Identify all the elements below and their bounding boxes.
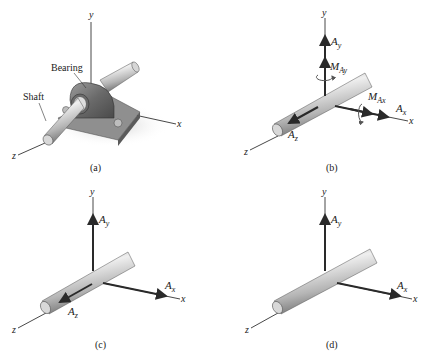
- x-axis-label: x: [408, 115, 414, 126]
- moment-max-label: MAx: [367, 90, 386, 105]
- z-axis: [251, 313, 278, 328]
- force-ay-label: Ay: [98, 213, 110, 228]
- panel-d: y x z Ay Ax (d): [244, 186, 418, 351]
- z-axis-label: z: [11, 150, 16, 161]
- force-ax-arrow: [337, 283, 400, 296]
- z-axis: [250, 136, 278, 150]
- panel-b: y x z Ay MAy MAx Ax Az (b): [243, 7, 414, 174]
- caption-d: (d): [326, 339, 338, 351]
- z-axis-label: z: [11, 324, 16, 335]
- x-axis-label: x: [412, 293, 418, 304]
- force-az-label: Az: [287, 128, 299, 143]
- moment-may-label: MAy: [329, 60, 348, 75]
- z-axis-label: z: [243, 146, 248, 157]
- force-ay-label: Ay: [330, 213, 342, 228]
- bearing-callout: Bearing: [51, 62, 83, 73]
- caption-b: (b): [326, 162, 338, 174]
- x-axis-label: x: [176, 118, 182, 129]
- force-ax-label: Ax: [395, 102, 407, 117]
- force-ax-label: Ax: [396, 279, 408, 294]
- caption-c: (c): [95, 339, 106, 351]
- z-axis: [18, 313, 46, 328]
- moment-max-arrow: [350, 109, 372, 114]
- bolt-icon: [114, 119, 122, 127]
- y-axis-label: y: [88, 9, 94, 20]
- y-axis-label: y: [321, 186, 327, 197]
- shaft-callout: Shaft: [23, 91, 44, 102]
- shaft: [42, 252, 135, 314]
- caption-a: (a): [90, 162, 101, 174]
- force-ax-label: Ax: [164, 279, 176, 294]
- z-axis: [18, 143, 45, 155]
- force-ay-label: Ay: [330, 35, 342, 50]
- force-ax-arrow: [103, 283, 166, 296]
- panel-a: y x z Bearing Shaft (a): [11, 9, 182, 174]
- x-axis-label: x: [180, 293, 186, 304]
- z-axis-label: z: [244, 324, 249, 335]
- bearing-support-diagram: y x z Bearing Shaft (a) y x z Ay MAy MAx: [0, 0, 428, 359]
- y-axis-label: y: [321, 7, 327, 18]
- force-az-label: Az: [67, 305, 79, 320]
- shaft: [274, 73, 372, 136]
- shaft-leader: [39, 103, 46, 121]
- y-axis-label: y: [89, 186, 95, 197]
- moment-max-curl-icon: [359, 104, 363, 122]
- panel-c: y x z Ay Ax Az (c): [11, 186, 186, 351]
